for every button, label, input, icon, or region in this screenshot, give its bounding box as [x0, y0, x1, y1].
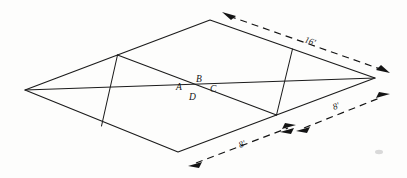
dimension-arrow-8ft-bottom-start: [188, 162, 202, 168]
dimension-arrow-8ft-right-start: [296, 127, 310, 133]
paper-smudge: [375, 150, 383, 154]
dimension-label-16ft: 16': [303, 34, 318, 47]
point-label-d: D: [188, 92, 196, 102]
left-divider-line: [102, 55, 118, 126]
point-label-c: C: [210, 84, 217, 94]
right-divider-line: [277, 49, 293, 115]
dimension-arrow-8ft-right-end: [376, 92, 390, 98]
dimension-line-8ft-right: [304, 97, 382, 128]
floor-plan-drawing: A B C D 16' 8' 8': [0, 0, 407, 178]
point-label-a: A: [175, 82, 182, 92]
center-divider-line: [118, 55, 277, 115]
dimension-arrow-16ft-start: [222, 12, 236, 20]
dimension-arrow-16ft-end: [376, 65, 390, 73]
dimension-label-8ft-right: 8': [331, 100, 342, 112]
diagram-canvas: A B C D 16' 8' 8': [0, 0, 407, 178]
point-label-b: B: [196, 74, 202, 84]
